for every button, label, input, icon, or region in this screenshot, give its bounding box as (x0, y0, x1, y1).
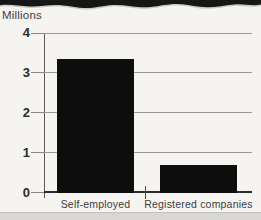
bar-registered-companies (160, 165, 237, 194)
y-tick-4 (31, 33, 44, 34)
page-bottom-edge-decoration (0, 212, 261, 220)
y-gridline-4 (44, 33, 252, 34)
y-tick-label-2: 2 (10, 105, 30, 121)
y-tick-0 (31, 192, 44, 193)
y-tick-2 (31, 112, 44, 113)
y-axis-line (44, 33, 45, 198)
category-label-registered-companies: Registered companies (139, 198, 259, 210)
bar-self-employed (57, 59, 134, 194)
bar-chart: 01234Self-employedRegistered companies (0, 0, 261, 220)
y-tick-label-4: 4 (10, 25, 30, 41)
scanned-chart-page: Millions 01234Self-employedRegistered co… (0, 0, 261, 220)
y-tick-label-1: 1 (10, 145, 30, 161)
y-tick-label-3: 3 (10, 65, 30, 81)
category-label-self-employed: Self-employed (36, 198, 156, 210)
y-tick-3 (31, 72, 44, 73)
y-tick-label-0: 0 (10, 185, 30, 201)
y-tick-1 (31, 152, 44, 153)
